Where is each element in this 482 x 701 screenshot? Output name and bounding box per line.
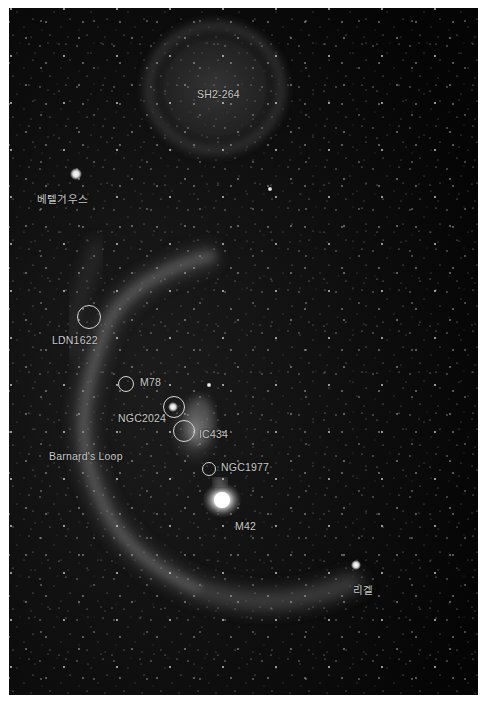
ngc2024-marker bbox=[163, 396, 185, 418]
m78-marker bbox=[118, 376, 134, 392]
ic434-marker bbox=[173, 420, 195, 442]
label-m42: M42 bbox=[235, 520, 256, 532]
label-sh2-264: SH2-264 bbox=[197, 88, 240, 100]
label-ldn1622: LDN1622 bbox=[52, 334, 98, 346]
label-m78: M78 bbox=[140, 376, 161, 388]
label-betelgeuse: 베텔기우스 bbox=[37, 191, 88, 206]
label-barnards-loop: Barnard's Loop bbox=[49, 450, 123, 462]
label-rigel: 리겔 bbox=[353, 582, 373, 597]
starfield-image bbox=[9, 8, 478, 695]
ldn1622-marker bbox=[77, 305, 101, 329]
label-ic434: IC434 bbox=[199, 428, 228, 440]
label-ngc2024: NGC2024 bbox=[118, 412, 166, 424]
astrophoto-frame bbox=[9, 8, 478, 695]
label-ngc1977: NGC1977 bbox=[221, 461, 269, 473]
ngc1977-marker bbox=[202, 462, 216, 476]
